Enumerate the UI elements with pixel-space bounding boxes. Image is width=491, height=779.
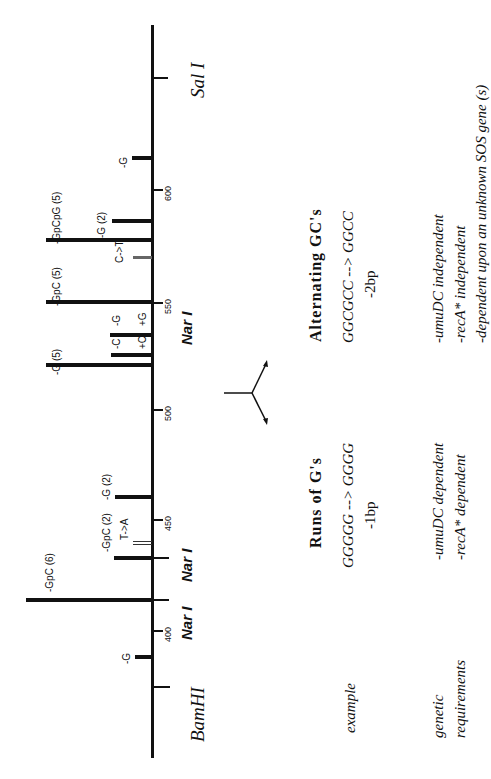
mutation-bar (115, 495, 152, 499)
mutation-label: T->A (119, 519, 130, 540)
branch-arrow-icon (220, 350, 280, 430)
alt-example-line2: -2bp (362, 271, 379, 299)
substitution-bar (133, 541, 152, 545)
runs-req-line2: -recA* dependent (452, 454, 469, 560)
mutation-label: -C (111, 338, 122, 349)
tick-450 (153, 519, 163, 521)
mutation-bar (132, 156, 152, 160)
mutation-label: -GpC (5) (51, 267, 62, 306)
mutation-label: -GpC (6) (44, 553, 55, 592)
substitution-bar (133, 256, 152, 259)
site-tick-sal1 (153, 77, 168, 79)
tick-label-500: 500 (163, 406, 173, 421)
column-header-runs-of-g: Runs of G's (307, 457, 325, 548)
row-label-example: example (342, 683, 359, 733)
mutation-label: C->T (114, 241, 125, 264)
mutation-label: -G (111, 315, 122, 326)
mutation-label: +G (137, 312, 148, 326)
site-tick-nar1-b (153, 557, 169, 559)
mutation-label: +C (137, 336, 148, 349)
mutation-bar (135, 655, 152, 659)
alt-req-line2: -recA* independent (452, 226, 469, 343)
tick-label-400: 400 (163, 627, 173, 642)
column-header-alternating-gc: Alternating GC's (307, 208, 325, 342)
tick-600 (153, 189, 163, 191)
site-tick-nar1-c (153, 599, 169, 601)
site-label-nar1-b: Nar I (178, 549, 195, 582)
mutation-label: -G (5) (51, 349, 62, 375)
mutation-map-figure: 600 550 500 450 400 Sal I Nar I Nar I Na… (0, 0, 491, 779)
mutation-label: -G (121, 653, 132, 664)
alt-req-line3: -dependent upon an unknown SOS gene (s) (473, 85, 490, 343)
mutation-label: -GpC (2) (101, 513, 112, 552)
site-tick-bamhi (153, 686, 170, 688)
tick-400 (153, 630, 163, 632)
site-label-bamhi: BamHI (187, 687, 209, 742)
runs-example-line2: -1bp (362, 502, 379, 530)
tick-label-550: 550 (163, 299, 173, 314)
mutation-bar (26, 598, 152, 602)
row-label-requirements: requirements (452, 660, 469, 738)
mutation-bar (114, 556, 152, 560)
tick-label-600: 600 (163, 186, 173, 201)
runs-example-line1: GGGGG --> GGGG (340, 443, 357, 568)
tick-label-450: 450 (163, 516, 173, 531)
mutation-label: -G (2) (101, 474, 112, 500)
row-label-genetic: genetic (430, 695, 447, 738)
site-label-nar1-c: Nar I (178, 607, 195, 640)
mutation-label: -GpCpG (5) (51, 192, 62, 244)
alt-req-line1: -umuDC independent (430, 214, 447, 343)
mutation-label: -G (118, 157, 129, 168)
mutation-bar (112, 219, 152, 223)
sequence-axis (151, 25, 154, 758)
tick-500 (153, 409, 163, 411)
site-label-sal1: Sal I (187, 63, 209, 98)
mutation-bar (111, 353, 152, 357)
alt-example-line1: GGCGCC --> GGCC (340, 211, 357, 343)
tick-550 (153, 302, 163, 304)
site-label-nar1-a: Nar I (178, 312, 195, 345)
runs-req-line1: -umuDC dependent (430, 443, 447, 560)
mutation-label: -G (2) (96, 212, 107, 238)
